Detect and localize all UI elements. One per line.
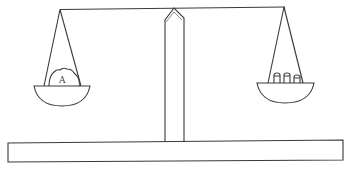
weights bbox=[274, 73, 300, 83]
right-string-2 bbox=[284, 7, 303, 83]
balance-scale-diagram: A bbox=[0, 0, 348, 169]
weight-2 bbox=[284, 73, 290, 83]
right-pan bbox=[257, 7, 314, 103]
object-a-label: A bbox=[58, 75, 66, 85]
left-pan: A bbox=[34, 10, 90, 107]
base-plank bbox=[8, 140, 343, 162]
left-pan-bowl bbox=[34, 86, 90, 106]
weight-1 bbox=[274, 73, 280, 83]
right-pan-bowl bbox=[257, 83, 314, 103]
right-string-1 bbox=[268, 7, 284, 83]
central-pillar bbox=[165, 8, 184, 142]
weight-3 bbox=[294, 75, 300, 83]
